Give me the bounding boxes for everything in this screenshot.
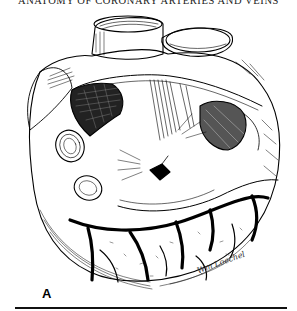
running-head: ANATOMY OF CORONARY ARTERIES AND VEINS — [0, 0, 297, 6]
horizontal-rule — [15, 307, 287, 309]
arrow-marker — [150, 164, 170, 180]
heart-illustration — [0, 10, 297, 300]
coronary-artery — [70, 196, 268, 280]
right-chamber — [200, 101, 259, 150]
aorta-vessel — [92, 16, 163, 59]
pulmonary-vessel — [162, 28, 233, 56]
left-chamber — [71, 83, 123, 136]
panel-label: A — [42, 286, 51, 301]
valve-ring — [51, 126, 88, 166]
